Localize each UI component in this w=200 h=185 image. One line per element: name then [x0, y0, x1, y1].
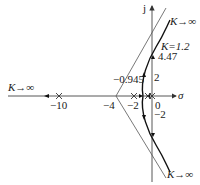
tick-label: 2 [154, 71, 160, 83]
tick-label: −2 [154, 108, 166, 120]
real-axis-label: σ [178, 89, 184, 101]
root-locus-diagram: σ j −10 −4 −2 0 2 −2 −0.945 K=1.2 4.47 K… [0, 0, 200, 185]
breakaway-label: −0.945 [113, 73, 144, 85]
tick-label: −4 [103, 99, 115, 111]
tick-label: −10 [50, 99, 68, 111]
k-infinity-top-label: K→∞ [169, 15, 196, 27]
imag-axis-label: j [142, 2, 146, 14]
k-infinity-bottom-label: K→∞ [166, 168, 193, 180]
crossing-value-label: 4.47 [158, 50, 178, 62]
tick-label: −2 [127, 99, 139, 111]
k-infinity-left-label: K→∞ [7, 81, 34, 93]
arrow-left-icon [44, 94, 49, 98]
